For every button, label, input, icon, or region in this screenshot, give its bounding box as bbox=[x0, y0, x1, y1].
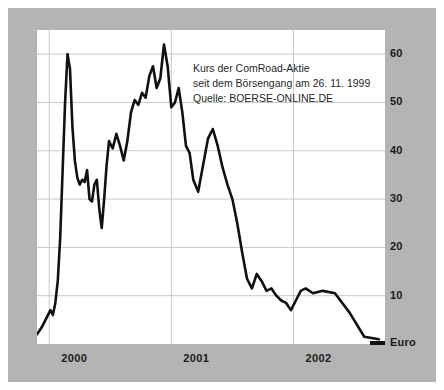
y-tick-label-50: 50 bbox=[390, 95, 403, 107]
chart-annotation-block: Kurs der ComRoad-Aktie seit dem Börsenga… bbox=[193, 61, 370, 106]
y-tick-label-40: 40 bbox=[390, 144, 403, 156]
y-axis-unit-label: Euro bbox=[390, 336, 416, 348]
y-tick-label-30: 30 bbox=[390, 192, 403, 204]
annotation-line-2: seit dem Börsengang am 26. 11. 1999 bbox=[193, 76, 370, 91]
chart-figure: 60 50 40 30 20 10 Euro 2000 2001 2002 Ku… bbox=[0, 0, 444, 390]
annotation-line-3: Quelle: BOERSE-ONLINE.DE bbox=[193, 91, 370, 106]
x-tick-label-2002: 2002 bbox=[305, 352, 331, 364]
x-tick-label-2000: 2000 bbox=[61, 352, 87, 364]
y-tick-label-60: 60 bbox=[390, 47, 403, 59]
euro-axis-tick bbox=[370, 341, 385, 345]
y-tick-label-20: 20 bbox=[390, 240, 403, 252]
annotation-line-1: Kurs der ComRoad-Aktie bbox=[193, 61, 370, 76]
y-tick-label-10: 10 bbox=[390, 289, 403, 301]
x-tick-label-2001: 2001 bbox=[183, 352, 209, 364]
